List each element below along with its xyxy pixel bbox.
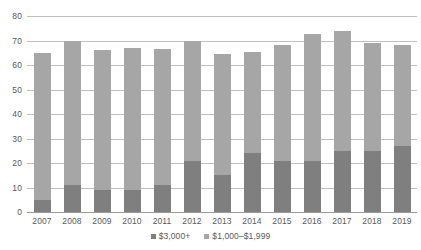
y-tick-label: 10 [12, 183, 22, 193]
bar-group [177, 16, 207, 212]
bar-stack [394, 45, 411, 212]
bar-stack [94, 50, 111, 212]
bar-segment-3000-plus [334, 151, 351, 212]
bar-segment-1000-1999 [184, 41, 201, 161]
legend-label: $1,000–$1,999 [212, 231, 270, 241]
bar-group [387, 16, 417, 212]
legend-swatch-icon [151, 234, 156, 239]
bar-stack [304, 34, 321, 212]
bar-stack [64, 41, 81, 212]
bar-segment-3000-plus [364, 151, 381, 212]
bar-stack [364, 43, 381, 212]
bar-group [27, 16, 57, 212]
bar-group [297, 16, 327, 212]
bar-segment-1000-1999 [214, 54, 231, 175]
bar-segment-3000-plus [94, 190, 111, 212]
bar-stack [124, 48, 141, 212]
y-tick-label: 40 [12, 109, 22, 119]
bar-segment-3000-plus [274, 161, 291, 212]
bar-segment-3000-plus [244, 153, 261, 212]
x-tick-label: 2008 [57, 213, 87, 229]
legend-label: $3,000+ [159, 231, 191, 241]
x-tick-label: 2010 [117, 213, 147, 229]
bar-stack [244, 52, 261, 212]
bar-segment-1000-1999 [304, 34, 321, 160]
bar-group [87, 16, 117, 212]
bar-group [207, 16, 237, 212]
bar-segment-3000-plus [124, 190, 141, 212]
bar-segment-3000-plus [184, 161, 201, 212]
bar-segment-1000-1999 [64, 41, 81, 186]
bar-group [357, 16, 387, 212]
bar-segment-3000-plus [34, 200, 51, 212]
bar-segment-3000-plus [394, 146, 411, 212]
bar-segment-1000-1999 [274, 45, 291, 160]
bar-stack [274, 45, 291, 212]
bars-layer [27, 16, 417, 212]
x-tick-label: 2015 [267, 213, 297, 229]
y-tick-label: 80 [12, 11, 22, 21]
legend-swatch-icon [204, 234, 209, 239]
x-tick-label: 2016 [297, 213, 327, 229]
bar-segment-3000-plus [214, 175, 231, 212]
bar-stack [184, 41, 201, 212]
x-tick-label: 2018 [357, 213, 387, 229]
bar-group [147, 16, 177, 212]
x-tick-label: 2013 [207, 213, 237, 229]
stacked-bar-chart: 01020304050607080 2007200820092010201120… [0, 0, 421, 250]
legend-item: $1,000–$1,999 [204, 231, 270, 241]
x-tick-label: 2007 [27, 213, 57, 229]
bar-group [327, 16, 357, 212]
bar-segment-1000-1999 [34, 53, 51, 200]
bar-group [237, 16, 267, 212]
x-axis: 2007200820092010201120122013201420152016… [27, 213, 417, 229]
y-tick-label: 70 [12, 36, 22, 46]
x-tick-label: 2011 [147, 213, 177, 229]
x-tick-label: 2017 [327, 213, 357, 229]
bar-segment-1000-1999 [334, 31, 351, 151]
bar-stack [334, 31, 351, 212]
bar-segment-3000-plus [304, 161, 321, 212]
y-tick-label: 20 [12, 158, 22, 168]
y-tick-label: 30 [12, 134, 22, 144]
bar-stack [154, 49, 171, 212]
bar-segment-1000-1999 [154, 49, 171, 185]
bar-segment-1000-1999 [244, 52, 261, 154]
bar-segment-1000-1999 [364, 43, 381, 151]
y-tick-label: 60 [12, 60, 22, 70]
x-tick-label: 2019 [387, 213, 417, 229]
bar-group [117, 16, 147, 212]
legend-item: $3,000+ [151, 231, 191, 241]
bar-segment-3000-plus [64, 185, 81, 212]
x-tick-label: 2014 [237, 213, 267, 229]
bar-segment-1000-1999 [124, 48, 141, 190]
x-tick-label: 2012 [177, 213, 207, 229]
y-axis: 01020304050607080 [0, 0, 27, 250]
x-tick-label: 2009 [87, 213, 117, 229]
bar-stack [214, 54, 231, 212]
bar-segment-1000-1999 [394, 45, 411, 145]
bar-segment-1000-1999 [94, 50, 111, 190]
bar-group [57, 16, 87, 212]
y-tick-label: 0 [17, 207, 22, 217]
bar-stack [34, 53, 51, 212]
y-tick-label: 50 [12, 85, 22, 95]
bar-segment-3000-plus [154, 185, 171, 212]
bar-group [267, 16, 297, 212]
chart-legend: $3,000+$1,000–$1,999 [0, 231, 421, 241]
